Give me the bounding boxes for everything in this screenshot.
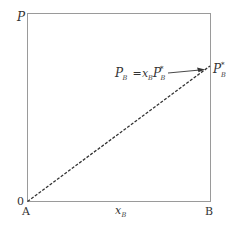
annotation-arrow <box>168 70 200 73</box>
equation-label: P B = x B P * B <box>114 65 166 82</box>
left-end-label-A: A <box>21 205 31 218</box>
svg-text:B: B <box>220 71 226 79</box>
raoult-law-line <box>28 66 211 202</box>
right-end-label-B: B <box>205 205 213 218</box>
svg-text:B: B <box>121 211 127 219</box>
svg-text:*: * <box>221 61 225 69</box>
plot-frame <box>28 14 211 202</box>
x-axis-label: x B <box>115 204 127 219</box>
y-axis-label: P <box>16 10 26 24</box>
svg-text:B: B <box>160 74 166 82</box>
end-value-label: P * B <box>212 61 226 79</box>
pressure-composition-diagram: P 0 A B x B P B = x B P * B P * B <box>0 0 237 228</box>
svg-text:B: B <box>122 74 128 82</box>
arrow-head-icon <box>197 68 205 73</box>
svg-text:*: * <box>160 65 164 73</box>
